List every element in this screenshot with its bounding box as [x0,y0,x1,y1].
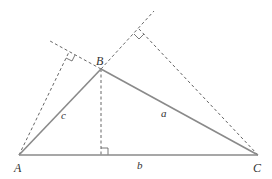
triangle-figure [0,0,272,179]
side-label-a: a [161,108,167,119]
vertex-label-a: A [14,162,21,174]
altitude-from-c [139,29,258,155]
vertex-label-b: B [96,55,103,67]
right-angle-marker-b [101,148,108,155]
extension-cb-dashed [50,41,101,69]
triangle-diagram: B A C c a b [0,0,272,179]
right-angle-marker-c [134,34,144,39]
side-c [19,69,101,155]
vertex-label-c: C [253,162,261,174]
extension-ab-dashed [101,11,154,69]
side-label-c: c [61,110,66,121]
side-label-b: b [137,160,143,171]
side-a [101,69,258,155]
altitude-from-a [19,52,69,155]
